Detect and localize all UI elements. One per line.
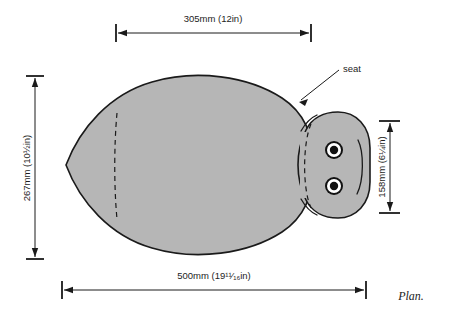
seat-callout-label: seat bbox=[343, 63, 361, 74]
plan-drawing: 305mm (12in) 267mm (10½in) 158mm (6¼in) bbox=[0, 0, 455, 321]
top-dimension-label: 305mm (12in) bbox=[184, 13, 243, 24]
seat-callout-arrow-icon bbox=[299, 99, 308, 106]
seat-callout-leader-line bbox=[301, 70, 339, 100]
right-dimension-label-group: 158mm (6¼in) bbox=[376, 136, 387, 197]
right-dimension-arrow-top-icon bbox=[387, 123, 393, 132]
bottom-width-dimension: 500mm (19¹¹⁄₁₆in) bbox=[62, 270, 366, 299]
bottom-dimension-arrow-right-icon bbox=[355, 287, 364, 293]
top-width-dimension: 305mm (12in) bbox=[116, 13, 311, 42]
plan-drawing-canvas: 305mm (12in) 267mm (10½in) 158mm (6¼in) bbox=[0, 0, 455, 321]
right-height-dimension: 158mm (6¼in) bbox=[376, 121, 400, 213]
seat-joint-fill bbox=[300, 132, 316, 198]
figure-caption: Plan. bbox=[397, 289, 424, 303]
bottom-dimension-label: 500mm (19¹¹⁄₁₆in) bbox=[177, 270, 251, 281]
left-dimension-arrow-top-icon bbox=[32, 78, 38, 87]
right-dimension-label: 158mm (6¼in) bbox=[376, 136, 387, 197]
seat-callout: seat bbox=[299, 63, 361, 106]
top-dimension-arrow-right-icon bbox=[300, 30, 309, 36]
top-dimension-arrow-left-icon bbox=[118, 30, 127, 36]
mounting-hole-lower bbox=[325, 177, 343, 195]
bottom-dimension-arrow-left-icon bbox=[64, 287, 73, 293]
left-dimension-arrow-bottom-icon bbox=[32, 248, 38, 257]
right-dimension-arrow-bottom-icon bbox=[387, 202, 393, 211]
left-dimension-label: 267mm (10½in) bbox=[21, 135, 32, 202]
seat-body-outline bbox=[66, 75, 314, 254]
left-dimension-label-group: 267mm (10½in) bbox=[21, 135, 32, 202]
mounting-hole-upper-center bbox=[330, 146, 338, 154]
seat-plan-shape bbox=[66, 75, 370, 254]
mounting-hole-upper bbox=[325, 141, 343, 159]
mounting-hole-lower-center bbox=[330, 182, 338, 190]
left-height-dimension: 267mm (10½in) bbox=[21, 76, 44, 259]
